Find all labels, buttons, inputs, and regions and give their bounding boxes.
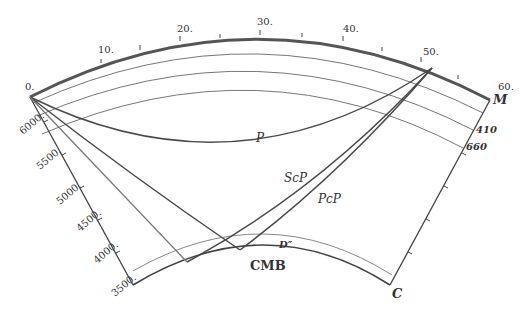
ray-path-diagram: 0. 10. 20. 30. 40. 50. 60. 6000. 5500. 5… (0, 0, 530, 314)
radius-label-4000: 4000. (91, 239, 120, 266)
moho-label: M (492, 92, 508, 107)
radius-label-5000: 5000. (54, 180, 83, 207)
distance-label-40: 40. (343, 23, 359, 34)
left-radius-edge (30, 97, 133, 285)
d410-label: 410 (476, 124, 497, 135)
scp-ray-up (240, 68, 432, 250)
scp-phase-label: ScP (284, 171, 308, 185)
d410-line (37, 71, 473, 130)
pcp-ray-down (30, 97, 187, 262)
radius-label-5500: 5500. (34, 145, 63, 172)
scp-ray-down (30, 97, 240, 250)
p-phase-label: P (255, 131, 265, 145)
distance-label-30: 30. (257, 16, 273, 27)
d660-label: 660 (466, 141, 487, 152)
distance-label-60: 60. (498, 81, 514, 92)
d-double-prime-label: D″ (278, 239, 293, 250)
pcp-phase-label: PcP (317, 192, 342, 206)
p-ray-path (30, 68, 432, 142)
cmb-label: CMB (250, 258, 286, 273)
distance-label-10: 10. (98, 44, 114, 55)
right-edge-ticks (408, 153, 466, 254)
distance-label-50: 50. (423, 46, 439, 57)
distance-label-20: 20. (177, 23, 193, 34)
distance-label-0: 0. (25, 81, 35, 92)
right-radius-edge (390, 100, 490, 285)
core-label: C (392, 286, 403, 301)
radius-label-6000: 6000. (17, 110, 46, 137)
